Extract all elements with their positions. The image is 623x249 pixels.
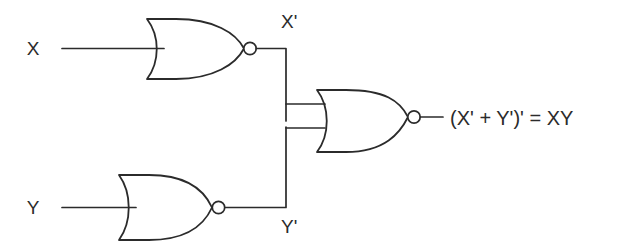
- wire-x-prime: [256, 49, 286, 122]
- gate-nor-bottom-bubble: [212, 201, 224, 213]
- node-label-y-prime: Y': [281, 216, 297, 237]
- gate-nor-output: [317, 90, 420, 152]
- node-label-x-prime: X': [281, 11, 297, 32]
- input-label-x: X: [27, 38, 40, 59]
- output-expression-label: (X' + Y')' = XY: [450, 107, 573, 129]
- logic-circuit-diagram: X Y X' Y' (X' + Y')' = XY: [0, 0, 623, 249]
- wire-y-prime: [225, 127, 286, 208]
- logic-diagram-canvas: X Y X' Y' (X' + Y')' = XY: [0, 0, 623, 249]
- gate-nor-top-bubble: [244, 42, 256, 54]
- gate-nor-output-bubble: [408, 111, 420, 123]
- input-label-y: Y: [27, 197, 40, 218]
- gate-nor-output-body: [317, 90, 408, 152]
